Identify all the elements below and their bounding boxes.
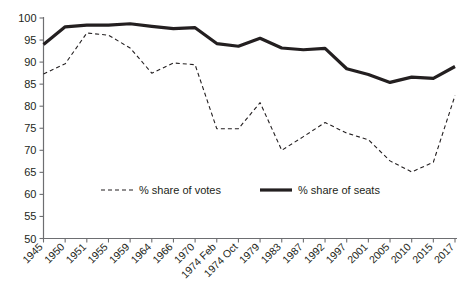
series-line-votes [44,33,456,172]
y-tick-label: 90 [24,56,36,68]
y-tick-label: 95 [24,34,36,46]
y-axis-tick-labels: 50556065707580859095100 [18,12,36,245]
x-tick-label: 2005 [366,240,391,265]
x-tick-label: 1950 [42,240,67,265]
x-tick-label: 2001 [345,240,370,265]
x-tick-label: 1966 [150,240,175,265]
legend: % share of votes % share of seats [101,184,380,196]
x-tick-label: 1987 [280,240,305,265]
x-tick-label: 1992 [301,240,326,265]
line-chart: 50556065707580859095100 1945195019511955… [0,0,471,301]
y-tick-label: 55 [24,210,36,222]
x-tick-label: 1959 [107,240,132,265]
x-tick-label: 1983 [258,240,283,265]
y-tick-label: 65 [24,166,36,178]
x-tick-label: 1997 [323,240,348,265]
x-tick-label: 2015 [410,240,435,265]
y-tick-label: 100 [18,12,36,24]
y-axis: 50556065707580859095100 [18,12,43,245]
y-tick-label: 85 [24,78,36,90]
series-line-seats [44,24,456,83]
x-axis-tick-labels: 194519501951195519591964196619701974 Feb… [20,240,457,280]
x-axis: 194519501951195519591964196619701974 Feb… [20,239,457,281]
x-tick-label: 1951 [63,240,88,265]
x-axis-ticks [44,239,456,243]
x-tick-label: 1979 [236,240,261,265]
legend-label-votes: % share of votes [139,184,221,196]
x-tick-label: 1955 [85,240,110,265]
x-tick-label: 2010 [388,240,413,265]
y-tick-label: 80 [24,100,36,112]
y-tick-label: 75 [24,122,36,134]
legend-label-seats: % share of seats [298,184,380,196]
x-tick-label: 1964 [128,240,153,265]
y-tick-label: 70 [24,144,36,156]
x-tick-label: 2017 [431,240,456,265]
series-plot-area [44,24,456,172]
chart-container: 50556065707580859095100 1945195019511955… [0,0,471,301]
y-tick-label: 60 [24,188,36,200]
